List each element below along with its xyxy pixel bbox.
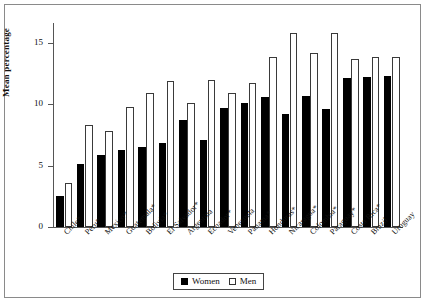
bar-group (343, 23, 359, 227)
bar-group (322, 23, 338, 227)
legend-swatch-men (229, 278, 236, 285)
chart-frame: Mean percentage 051015 Chile*Peru*Mexico… (4, 4, 421, 298)
bar-group (241, 23, 257, 227)
bar-men (269, 57, 277, 227)
y-tick-label: 5 (5, 160, 43, 170)
legend-label-women: Women (192, 276, 220, 286)
bar-women (261, 97, 269, 227)
bar-men (208, 80, 216, 227)
bar-group (118, 23, 134, 227)
bar-men (105, 131, 113, 227)
bar-group (282, 23, 298, 227)
chart-legend: Women Men (173, 273, 264, 290)
y-tick-label: 15 (5, 37, 43, 47)
bar-men (392, 57, 400, 227)
bar-women (56, 196, 64, 227)
bar-men (310, 53, 318, 228)
bar-group (179, 23, 195, 227)
bar-men (167, 81, 175, 227)
legend-label-men: Men (240, 276, 257, 286)
bar-women (384, 76, 392, 227)
bar-group (302, 23, 318, 227)
bar-women (97, 155, 105, 228)
bar-group (220, 23, 236, 227)
bar-men (351, 59, 359, 227)
bar-women (343, 78, 351, 227)
bar-men (126, 107, 134, 227)
bar-group (384, 23, 400, 227)
bar-group (261, 23, 277, 227)
legend-item-men: Men (229, 276, 257, 286)
bar-men (228, 93, 236, 227)
legend-item-women: Women (181, 276, 220, 286)
bar-group (97, 23, 113, 227)
legend-swatch-women (181, 278, 188, 285)
bar-women (363, 77, 371, 227)
plot-area (54, 23, 402, 227)
bar-group (159, 23, 175, 227)
y-tick-label: 0 (5, 221, 43, 231)
bar-group (363, 23, 379, 227)
bar-group (200, 23, 216, 227)
bar-men (331, 33, 339, 227)
bar-men (290, 33, 298, 227)
bar-group (77, 23, 93, 227)
bar-group (138, 23, 154, 227)
bar-men (85, 125, 93, 227)
y-tick-label: 10 (5, 98, 43, 108)
bar-group (56, 23, 72, 227)
